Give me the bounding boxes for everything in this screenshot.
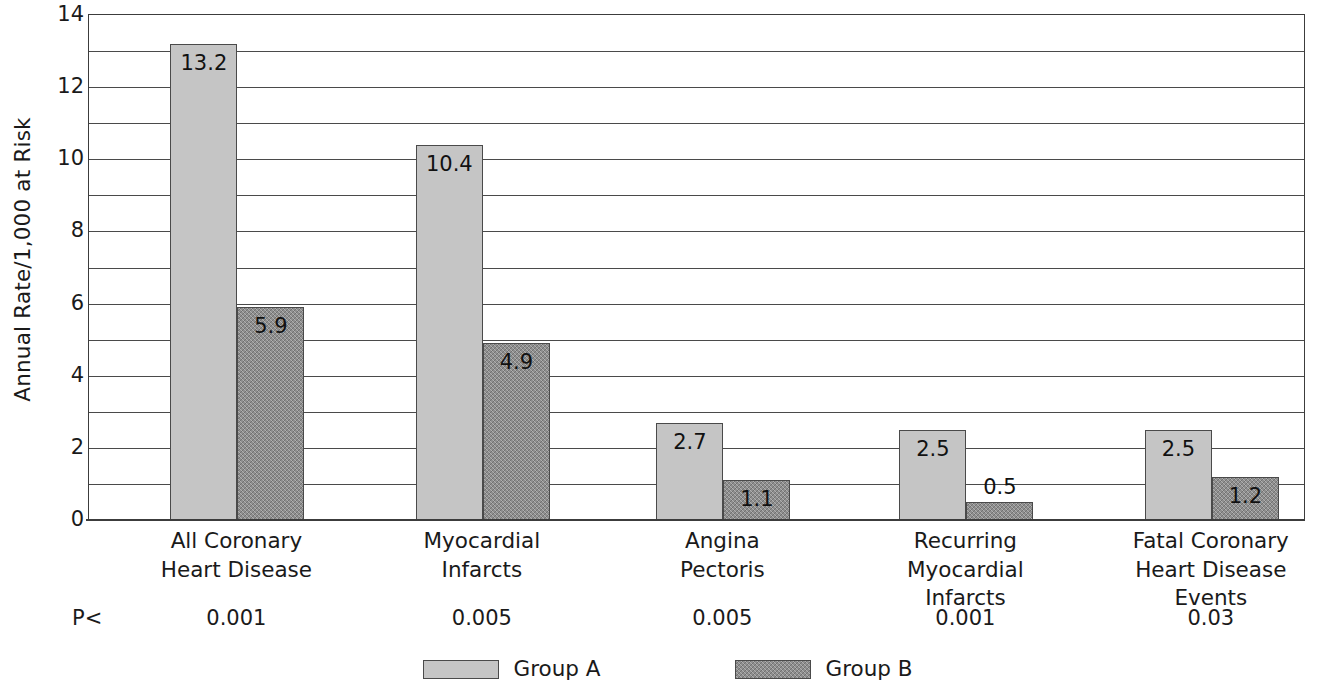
bar-group: 13.25.9 — [170, 15, 304, 520]
bar-value-label: 1.1 — [724, 489, 789, 510]
legend-entry[interactable]: Group A — [423, 658, 600, 680]
y-axis-tick-label: 12 — [44, 76, 84, 97]
p-value: 0.005 — [362, 608, 602, 629]
y-axis-tick-label: 14 — [44, 4, 84, 25]
bar-value-label: 4.9 — [484, 352, 549, 373]
bar-group-b[interactable]: 4.9 — [483, 343, 550, 520]
bar-group-b[interactable]: 5.9 — [237, 307, 304, 520]
legend-label: Group B — [825, 658, 912, 680]
bar-value-label: 13.2 — [171, 53, 236, 74]
y-axis-tick-label: 2 — [44, 436, 84, 457]
bar-value-label: 10.4 — [417, 154, 482, 175]
y-axis-tick-label: 0 — [44, 509, 84, 530]
bar-group-a[interactable]: 13.2 — [170, 44, 237, 520]
legend-entry[interactable]: Group B — [735, 658, 912, 680]
x-axis-line — [86, 519, 1305, 521]
chart-legend: Group AGroup B — [0, 652, 1336, 686]
p-value-prefix-label: P< — [72, 608, 102, 629]
bar-value-label: 2.5 — [900, 439, 965, 460]
bar-group-b[interactable]: 1.1 — [723, 480, 790, 520]
bar-group: 2.71.1 — [656, 15, 790, 520]
plot-area: 13.25.910.44.92.71.12.50.52.51.2 — [88, 14, 1305, 520]
bar-group-b[interactable]: 0.5 — [966, 502, 1033, 520]
legend-label: Group A — [513, 658, 600, 680]
bar-group: 2.50.5 — [899, 15, 1033, 520]
legend-swatch — [735, 660, 811, 679]
bar-group-a[interactable]: 2.5 — [1145, 430, 1212, 520]
category-label: Fatal CoronaryHeart DiseaseEvents — [1061, 527, 1336, 613]
bar-value-label: 2.5 — [1146, 439, 1211, 460]
y-axis-tick-label: 6 — [44, 292, 84, 313]
bar-chart-figure: Annual Rate/1,000 at Risk 02468101214 13… — [0, 0, 1336, 694]
bar-value-label: 2.7 — [657, 432, 722, 453]
p-value: 0.001 — [845, 608, 1085, 629]
p-value: 0.03 — [1091, 608, 1331, 629]
bar-group-a[interactable]: 10.4 — [416, 145, 483, 520]
bar-value-label: 1.2 — [1213, 486, 1278, 507]
category-label-line: Heart Disease — [1061, 556, 1336, 585]
bar-group-b[interactable]: 1.2 — [1212, 477, 1279, 520]
bar-group: 10.44.9 — [416, 15, 550, 520]
bar-value-label: 5.9 — [238, 316, 303, 337]
y-axis-tick-label: 10 — [44, 148, 84, 169]
legend-swatch — [423, 660, 499, 679]
p-value-row: P< 0.0010.0050.0050.0010.03 — [0, 608, 1336, 642]
bar-value-label: 0.5 — [967, 477, 1032, 498]
y-axis-tick-labels: 02468101214 — [44, 0, 84, 694]
category-label-line: Fatal Coronary — [1061, 527, 1336, 556]
y-axis-title: Annual Rate/1,000 at Risk — [0, 0, 44, 519]
y-axis-tick-label: 4 — [44, 364, 84, 385]
p-value: 0.005 — [602, 608, 842, 629]
bar-group-a[interactable]: 2.7 — [656, 423, 723, 520]
p-value: 0.001 — [116, 608, 356, 629]
y-axis-tick-label: 8 — [44, 220, 84, 241]
bar-group: 2.51.2 — [1145, 15, 1279, 520]
bar-group-a[interactable]: 2.5 — [899, 430, 966, 520]
